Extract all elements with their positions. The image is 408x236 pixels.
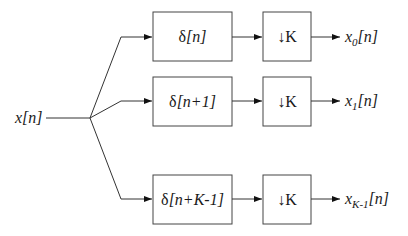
branch-line-2 <box>90 118 152 199</box>
output-label-2: xK-1[n] <box>344 190 389 210</box>
branch-line-0 <box>90 37 152 118</box>
delay-label-2: δ[n+K-1] <box>161 191 224 208</box>
branch-1: δ[n+1] ↓K x1[n] <box>153 77 378 126</box>
input-signal-label: x[n] <box>14 109 43 126</box>
branch-line-1 <box>90 101 152 118</box>
downsampler-label-1: ↓K <box>277 93 297 110</box>
output-label-0: x0[n] <box>344 28 378 48</box>
branch-0: δ[n] ↓K x0[n] <box>153 12 378 61</box>
output-label-1: x1[n] <box>344 92 378 112</box>
polyphase-block-diagram: x[n] δ[n] ↓K x0[n] δ[n+1] ↓K x1[n] δ[n+K… <box>0 0 408 236</box>
delay-label-0: δ[n] <box>179 28 207 45</box>
downsampler-label-0: ↓K <box>277 28 297 45</box>
branch-2: δ[n+K-1] ↓K xK-1[n] <box>153 175 389 224</box>
downsampler-label-2: ↓K <box>277 191 297 208</box>
delay-label-1: δ[n+1] <box>169 93 216 110</box>
